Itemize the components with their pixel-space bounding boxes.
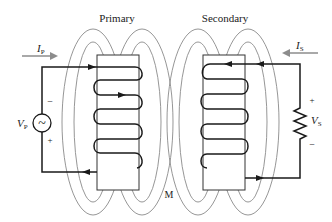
primary-minus-sign: − — [47, 96, 53, 107]
secondary-voltage-label: VS — [311, 114, 322, 128]
primary-plus-sign: + — [47, 135, 52, 145]
transformer-diagram: ~ Primary Secondary M IP IS VP VS − + + … — [0, 0, 332, 222]
secondary-plus-sign: + — [309, 95, 314, 105]
mutual-inductance-label: M — [165, 189, 174, 200]
primary-label: Primary — [99, 12, 135, 24]
primary-voltage-label: VP — [17, 117, 28, 131]
primary-core — [97, 55, 139, 190]
secondary-label: Secondary — [202, 12, 249, 24]
primary-current-label: IP — [36, 42, 45, 56]
secondary-current-label: IS — [295, 39, 304, 53]
secondary-minus-sign: − — [309, 139, 315, 150]
secondary-core — [203, 55, 245, 190]
ac-symbol: ~ — [38, 116, 46, 131]
current-arrows — [22, 49, 318, 60]
resistor-icon — [294, 102, 306, 158]
